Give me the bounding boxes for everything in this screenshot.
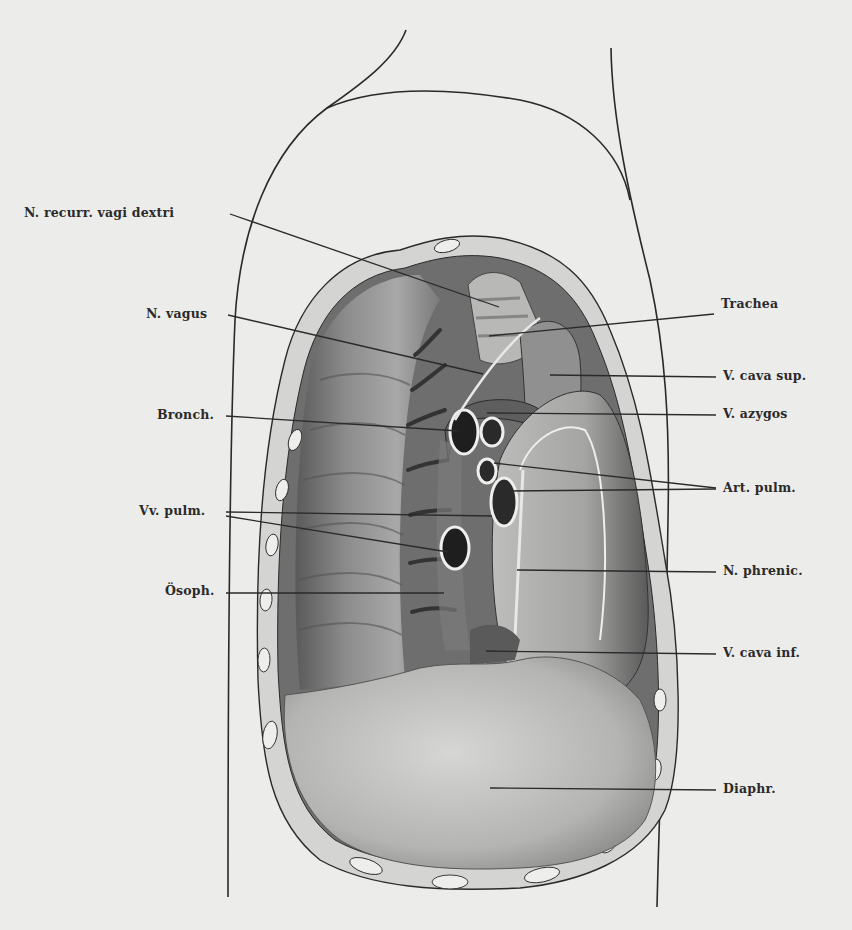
label-n-phrenic: N. phrenic. bbox=[723, 563, 803, 578]
label-v-cava-inf: V. cava inf. bbox=[723, 645, 800, 660]
diaphragm bbox=[284, 657, 655, 869]
label-v-azygos: V. azygos bbox=[723, 406, 788, 421]
label-trachea: Trachea bbox=[721, 296, 778, 311]
label-n-vagus: N. vagus bbox=[146, 306, 207, 321]
label-bronch: Bronch. bbox=[157, 407, 214, 422]
label-art-pulm: Art. pulm. bbox=[723, 480, 796, 495]
label-diaphr: Diaphr. bbox=[723, 781, 776, 796]
label-v-cava-sup: V. cava sup. bbox=[723, 368, 806, 383]
label-osoph: Ösoph. bbox=[165, 583, 215, 598]
label-n-recurr-vagi-dextri: N. recurr. vagi dextri bbox=[24, 205, 174, 220]
label-vv-pulm: Vv. pulm. bbox=[139, 503, 205, 518]
